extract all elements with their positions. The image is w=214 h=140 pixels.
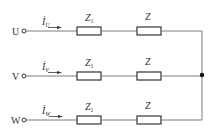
impedance-z-u — [137, 27, 161, 35]
terminal-u-icon — [22, 29, 26, 33]
impedance-z-v — [137, 72, 161, 80]
z-label-u: Z — [145, 11, 151, 22]
phase-w-branch: W İW Z1 Z — [11, 100, 202, 126]
impedance-z1-w — [77, 116, 101, 124]
z-label-v: Z — [145, 56, 151, 67]
z1-label-u: Z1 — [85, 12, 94, 24]
phase-v-branch: V İV Z1 Z — [12, 56, 202, 82]
terminal-label-u: U — [12, 26, 20, 37]
current-label-v: İV — [41, 61, 50, 73]
three-phase-circuit-diagram: U İU Z1 Z V İV Z1 Z W İW Z1 — [0, 0, 214, 140]
impedance-z1-u — [77, 27, 101, 35]
z1-label-w: Z1 — [85, 101, 94, 113]
current-label-w: İW — [41, 105, 51, 117]
terminal-label-w: W — [11, 115, 21, 126]
z1-label-v: Z1 — [85, 57, 94, 69]
z-label-w: Z — [145, 100, 151, 111]
current-label-u: İU — [41, 16, 50, 28]
terminal-label-v: V — [12, 71, 20, 82]
neutral-node-icon — [200, 73, 204, 77]
impedance-z1-v — [77, 72, 101, 80]
terminal-w-icon — [22, 118, 26, 122]
terminal-v-icon — [22, 74, 26, 78]
impedance-z-w — [137, 116, 161, 124]
phase-u-branch: U İU Z1 Z — [12, 11, 202, 37]
